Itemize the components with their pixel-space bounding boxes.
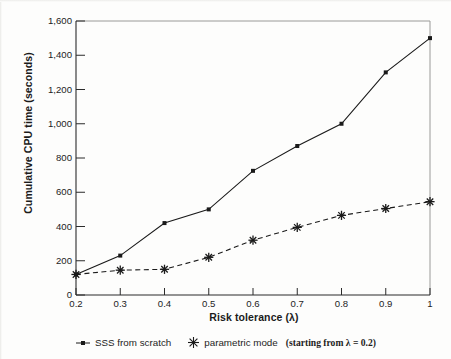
x-tick-label: 0.4 <box>145 298 185 309</box>
data-point-marker <box>251 169 255 173</box>
x-tick-label: 1 <box>410 298 450 309</box>
y-tick-label: 1,600 <box>48 15 72 26</box>
y-axis-title: Cumulative CPU time (seconds) <box>22 13 34 253</box>
data-point-marker <box>428 36 432 40</box>
data-point-marker <box>163 221 167 225</box>
y-tick-label: 600 <box>56 186 72 197</box>
chart-figure: 02004006008001,0001,2001,4001,600 0.20.3… <box>0 0 451 359</box>
data-point-marker <box>381 204 390 213</box>
data-point-marker <box>425 197 434 206</box>
data-point-marker <box>337 211 346 220</box>
x-tick-label: 0.7 <box>277 298 317 309</box>
y-tick-label: 1,000 <box>48 118 72 129</box>
y-tick-label: 200 <box>56 255 72 266</box>
data-point-marker <box>384 70 388 74</box>
series-parametric-mode <box>71 197 434 279</box>
data-point-marker <box>293 223 302 232</box>
x-tick-label: 0.6 <box>233 298 273 309</box>
data-point-marker <box>116 266 125 275</box>
data-series-layer <box>71 36 434 279</box>
data-point-marker <box>340 122 344 126</box>
legend-label-parametric: parametric mode <box>204 337 278 348</box>
legend-marker-square-line-icon <box>75 338 91 348</box>
x-tick-label: 0.2 <box>56 298 96 309</box>
data-point-marker <box>118 254 122 258</box>
legend-marker-asterisk-icon <box>187 336 200 349</box>
y-tick-label: 800 <box>56 152 72 163</box>
x-tick-label: 0.8 <box>322 298 362 309</box>
y-tick-label: 400 <box>56 221 72 232</box>
legend-label-sss: SSS from scratch <box>95 337 171 348</box>
x-tick-label: 0.3 <box>100 298 140 309</box>
axis-ticks <box>76 21 430 295</box>
x-axis-title: Risk tolerance (λ) <box>76 311 432 323</box>
data-point-marker <box>295 144 299 148</box>
legend-entry-sss: SSS from scratch <box>75 337 171 348</box>
data-point-marker <box>248 236 257 245</box>
data-point-marker <box>207 207 211 211</box>
y-tick-label: 1,200 <box>48 84 72 95</box>
legend-note-parametric: (starting from λ = 0.2) <box>286 337 376 348</box>
x-tick-label: 0.9 <box>366 298 406 309</box>
data-point-marker <box>160 265 169 274</box>
data-point-marker <box>71 270 80 279</box>
chart-legend: SSS from scratch parametric mode (starti… <box>0 336 451 349</box>
data-point-marker <box>204 253 213 262</box>
x-tick-label: 0.5 <box>189 298 229 309</box>
legend-entry-parametric: parametric mode (starting from λ = 0.2) <box>187 336 376 349</box>
y-tick-label: 1,400 <box>48 49 72 60</box>
axis-frame <box>76 21 430 295</box>
